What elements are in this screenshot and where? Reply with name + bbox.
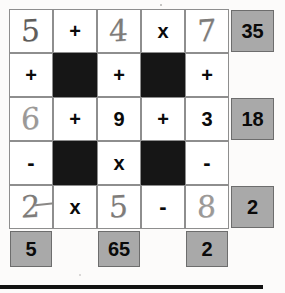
operator-symbol: - [203, 156, 210, 169]
operator-symbol: + [69, 108, 81, 131]
cell-r2c2 [53, 53, 97, 97]
cell-r2c4 [141, 53, 185, 97]
operator-symbol: - [27, 156, 34, 169]
puzzle-grid: 5 + 4 x 7 35 + + + [9, 9, 274, 255]
cell-r4c2 [53, 141, 97, 185]
cell-r1c3[interactable]: 4 [97, 9, 141, 53]
cell-r5c1[interactable]: 2 [9, 185, 53, 229]
cell-r1c1[interactable]: 5 [9, 9, 53, 53]
column-result-value: 2 [201, 238, 212, 261]
cell-r5c4: - [141, 185, 185, 229]
column-result-value: 65 [108, 238, 130, 261]
cell-r4c1: - [9, 141, 53, 185]
cell-r3c5: 3 [185, 97, 229, 141]
handwritten-answer: 4 [109, 15, 129, 46]
cell-r5c6: 2 [231, 186, 274, 228]
row-result-value: 18 [241, 108, 263, 131]
cell-r2c3: + [97, 53, 141, 97]
operator-symbol: + [157, 108, 169, 131]
cell-r5c2: x [53, 185, 97, 229]
cell-r1c4: x [141, 9, 185, 53]
operator-symbol: x [69, 196, 80, 219]
page-divider-rule [0, 285, 263, 289]
handwritten-answer: 6 [21, 103, 41, 134]
cell-r6c4 [141, 229, 185, 269]
handwritten-answer: 8 [197, 191, 217, 222]
cell-r2c5: + [185, 53, 229, 97]
cell-r6c2 [53, 229, 97, 269]
handwritten-answer: 5 [109, 191, 129, 222]
cell-r3c3: 9 [97, 97, 141, 141]
cell-r1c2: + [53, 9, 97, 53]
scan-speck [160, 4, 162, 6]
operator-symbol: - [159, 200, 166, 213]
column-result-value: 5 [25, 238, 36, 261]
cell-r6c3: 65 [98, 231, 140, 267]
cell-r6c6 [231, 229, 274, 269]
cell-r1c5[interactable]: 7 [185, 9, 229, 53]
cell-r2c1: + [9, 53, 53, 97]
grid-row: - x - [9, 141, 274, 185]
grid-row: + + + [9, 53, 274, 97]
grid-row: 2 x 5 - 8 2 [9, 185, 274, 229]
cell-r6c5: 2 [186, 231, 228, 267]
grid-row: 5 + 4 x 7 35 [9, 9, 274, 53]
handwritten-answer: 2 [21, 191, 41, 222]
cell-r3c2: + [53, 97, 97, 141]
operator-symbol: + [113, 64, 125, 87]
handwritten-answer: 7 [197, 15, 217, 46]
operator-symbol: x [113, 152, 124, 175]
cell-r6c1: 5 [10, 231, 52, 267]
cell-r4c4 [141, 141, 185, 185]
handwritten-answer: 5 [21, 15, 41, 46]
given-number: 9 [113, 108, 124, 131]
cell-r5c3[interactable]: 5 [97, 185, 141, 229]
cell-r1c6: 35 [231, 10, 274, 52]
grid-row: 6 + 9 + 3 18 [9, 97, 274, 141]
operator-symbol: + [69, 20, 81, 43]
cell-r3c6: 18 [231, 98, 274, 140]
cell-r3c1[interactable]: 6 [9, 97, 53, 141]
row-result-value: 35 [241, 20, 263, 43]
cell-r2c6 [231, 53, 274, 97]
operator-symbol: x [157, 20, 168, 43]
operator-symbol: + [201, 64, 213, 87]
row-result-value: 2 [247, 196, 258, 219]
scan-speck [79, 274, 81, 276]
cell-r4c5: - [185, 141, 229, 185]
given-number: 3 [201, 108, 212, 131]
grid-row: 5 65 2 [9, 229, 274, 269]
operator-symbol: + [25, 64, 37, 87]
cell-r4c3: x [97, 141, 141, 185]
cell-r5c5[interactable]: 8 [185, 185, 229, 229]
cell-r3c4: + [141, 97, 185, 141]
cell-r4c6 [231, 141, 274, 185]
